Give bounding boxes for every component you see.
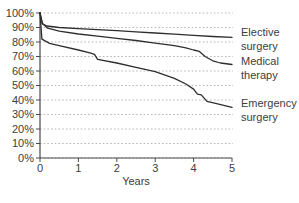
x-tick-label: 0 [37,162,43,174]
y-tick-label: 10% [12,137,34,149]
series-label-emergency-surgery: Emergency surgery [241,97,297,124]
x-tick-label: 2 [114,162,120,174]
y-tick-label: 70% [12,50,34,62]
y-tick-label: 0% [18,152,34,164]
survival-chart-figure: 100%90%80%70%60%50%40%30%20%10%0%012345 … [0,0,299,203]
y-tick-label: 90% [12,21,34,33]
y-tick-label: 20% [12,123,34,135]
y-tick-label: 100% [6,7,34,19]
y-tick-label: 40% [12,94,34,106]
series-label-line: surgery [241,40,280,54]
y-tick-label: 50% [12,79,34,91]
series-label-medical-therapy: Medical therapy [241,55,279,82]
series-label-elective-surgery: Elective surgery [241,26,280,53]
x-tick-label: 4 [191,162,197,174]
series-label-line: surgery [241,111,297,125]
x-tick-label: 5 [229,162,235,174]
series-label-line: Emergency [241,97,297,111]
curve-elective-surgery [40,13,232,37]
y-tick-label: 60% [12,65,34,77]
series-label-line: Elective [241,26,280,40]
x-axis-title: Years [0,175,272,187]
series-label-line: Medical [241,55,279,69]
y-tick-label: 30% [12,108,34,120]
y-tick-label: 80% [12,36,34,48]
x-tick-label: 1 [75,162,81,174]
series-label-line: therapy [241,69,279,83]
x-tick-label: 3 [152,162,158,174]
